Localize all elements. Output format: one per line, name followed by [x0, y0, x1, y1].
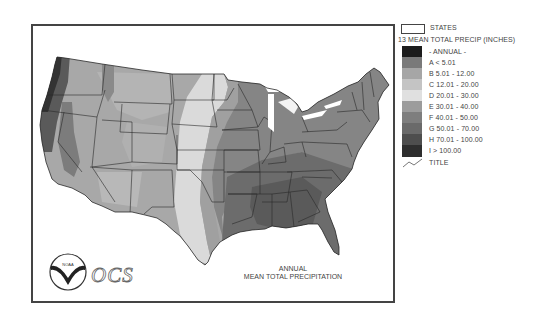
legend-label: H 70.01 - 100.00	[429, 136, 483, 143]
svg-text:NOAA: NOAA	[62, 262, 74, 267]
legend-label: I > 100.00	[429, 147, 461, 154]
title-line-icon	[402, 158, 424, 168]
legend-swatch-f	[402, 112, 422, 123]
map-frame: NOAA OCS ANNUAL MEAN TOTAL PRECIPITATION	[31, 24, 395, 303]
title-layer-label: TITLE	[429, 159, 449, 166]
legend-label: G 50.01 - 70.00	[429, 125, 479, 132]
legend-swatch-d	[402, 90, 422, 101]
legend-label: E 30.01 - 40.00	[429, 103, 478, 110]
legend-swatch-b	[402, 68, 422, 79]
legend-label: F 40.01 - 50.00	[429, 114, 478, 121]
caption-line-1: ANNUAL	[233, 265, 353, 273]
caption-line-2: MEAN TOTAL PRECIPITATION	[233, 273, 353, 281]
noaa-logo: NOAA	[47, 252, 89, 296]
legend-swatch-g	[402, 123, 422, 134]
legend-label: - ANNUAL -	[429, 48, 466, 55]
legend-swatch-e	[402, 101, 422, 112]
states-layer-label: STATES	[430, 24, 457, 31]
legend-swatch-c	[402, 79, 422, 90]
legend-label: D 20.01 - 30.00	[429, 92, 479, 99]
legend-swatch-i	[402, 145, 422, 157]
legend-swatch-h	[402, 134, 422, 145]
states-layer-swatch[interactable]	[401, 24, 425, 34]
legend-label: A < 5.01	[429, 59, 456, 66]
noaa-emblem-icon: NOAA	[47, 252, 89, 292]
map-caption: ANNUAL MEAN TOTAL PRECIPITATION	[233, 265, 353, 281]
legend-label: B 5.01 - 12.00	[429, 70, 474, 77]
legend-title: 13 MEAN TOTAL PRECIP (INCHES)	[398, 36, 515, 43]
legend-swatch-a	[402, 57, 422, 68]
legend-swatch-annual	[402, 46, 422, 57]
ocs-wordmark: OCS	[91, 263, 134, 288]
legend-label: C 12.01 - 20.00	[429, 81, 479, 88]
